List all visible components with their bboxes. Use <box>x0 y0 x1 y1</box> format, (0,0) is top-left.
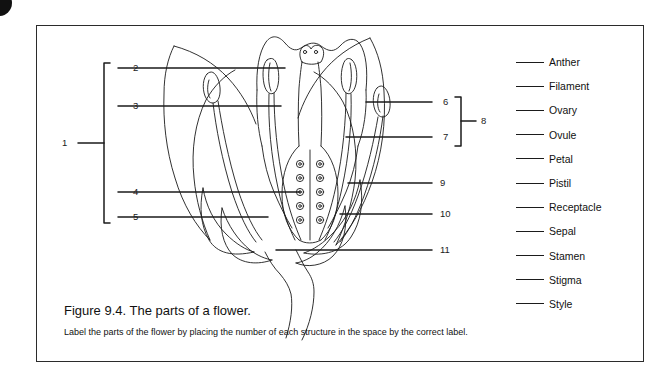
answer-blank-icon[interactable] <box>516 86 544 87</box>
callout-number-10: 10 <box>440 209 451 219</box>
answer-row-ovule[interactable]: Ovule <box>516 123 634 147</box>
answer-row-stigma[interactable]: Stigma <box>516 268 634 292</box>
answer-label: Ovary <box>549 104 577 116</box>
answer-blank-icon[interactable] <box>516 183 544 184</box>
answer-blank-icon[interactable] <box>516 134 544 135</box>
callout-number-3: 3 <box>133 101 138 111</box>
answer-row-stamen[interactable]: Stamen <box>516 244 634 268</box>
answer-row-receptacle[interactable]: Receptacle <box>516 195 634 219</box>
callout-number-2: 2 <box>133 63 138 73</box>
answer-label: Ovule <box>549 129 576 141</box>
answer-label: Style <box>549 298 572 310</box>
answer-row-anther[interactable]: Anther <box>516 50 634 74</box>
answer-blank-icon[interactable] <box>516 231 544 232</box>
answer-blank-icon[interactable] <box>516 279 544 280</box>
answer-row-filament[interactable]: Filament <box>516 74 634 98</box>
answer-blank-list: Anther Filament Ovary Ovule Petal Pistil… <box>516 50 634 316</box>
answer-label: Filament <box>549 80 589 92</box>
figure-caption-instruction: Label the parts of the flower by placing… <box>64 327 468 337</box>
callout-number-9: 9 <box>440 178 445 188</box>
answer-label: Receptacle <box>549 201 602 213</box>
answer-blank-icon[interactable] <box>516 207 544 208</box>
answer-label: Sepal <box>549 225 576 237</box>
answer-label: Stigma <box>549 274 582 286</box>
answer-row-pistil[interactable]: Pistil <box>516 171 634 195</box>
page-edge-artifact <box>0 0 12 16</box>
answer-blank-icon[interactable] <box>516 303 544 304</box>
answer-blank-icon[interactable] <box>516 110 544 111</box>
callout-number-7: 7 <box>443 132 448 142</box>
answer-label: Pistil <box>549 177 571 189</box>
callout-number-11: 11 <box>440 245 450 255</box>
callout-number-4: 4 <box>133 187 138 197</box>
answer-blank-icon[interactable] <box>516 255 544 256</box>
callout-number-6: 6 <box>443 97 448 107</box>
callout-number-1: 1 <box>62 138 67 148</box>
answer-row-ovary[interactable]: Ovary <box>516 98 634 122</box>
answer-label: Anther <box>549 56 580 68</box>
answer-blank-icon[interactable] <box>516 62 544 63</box>
figure-caption-title: Figure 9.4. The parts of a flower. <box>64 303 251 318</box>
answer-blank-icon[interactable] <box>516 158 544 159</box>
answer-label: Petal <box>549 153 573 165</box>
figure-page: 1 2 3 4 5 6 7 8 9 10 11 Anther Filament … <box>0 0 669 376</box>
callout-number-8: 8 <box>481 116 486 126</box>
answer-row-sepal[interactable]: Sepal <box>516 219 634 243</box>
answer-row-style[interactable]: Style <box>516 292 634 316</box>
answer-label: Stamen <box>549 250 585 262</box>
callout-number-5: 5 <box>133 212 138 222</box>
answer-row-petal[interactable]: Petal <box>516 147 634 171</box>
